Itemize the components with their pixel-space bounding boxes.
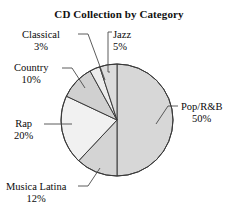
slice-label-jazz-pct: 5% — [113, 41, 131, 53]
slice-label-musica-latina: Musica Latina 12% — [6, 181, 66, 204]
pie-slice-pop-rnb — [117, 64, 173, 176]
slice-label-rap-name: Rap — [15, 118, 32, 129]
slice-label-country-name: Country — [14, 62, 48, 73]
slice-label-country: Country 10% — [14, 62, 48, 85]
slice-label-rap: Rap 20% — [14, 118, 33, 141]
slice-label-jazz-name: Jazz — [113, 29, 131, 40]
slice-label-rap-pct: 20% — [14, 130, 33, 142]
slice-label-pop-rnb-name: Pop/R&B — [181, 101, 222, 112]
pie-chart-figure: CD Collection by Category Classical 3% J… — [0, 0, 238, 216]
slice-label-country-pct: 10% — [14, 74, 48, 86]
slice-label-pop-rnb: Pop/R&B 50% — [181, 101, 222, 124]
slice-label-classical: Classical 3% — [22, 29, 60, 52]
slice-label-classical-name: Classical — [22, 29, 60, 40]
slice-label-pop-rnb-pct: 50% — [181, 113, 222, 125]
slice-label-musica-latina-name: Musica Latina — [6, 181, 66, 192]
slice-label-musica-latina-pct: 12% — [6, 193, 66, 205]
slice-label-jazz: Jazz 5% — [113, 29, 131, 52]
slice-label-classical-pct: 3% — [22, 41, 60, 53]
